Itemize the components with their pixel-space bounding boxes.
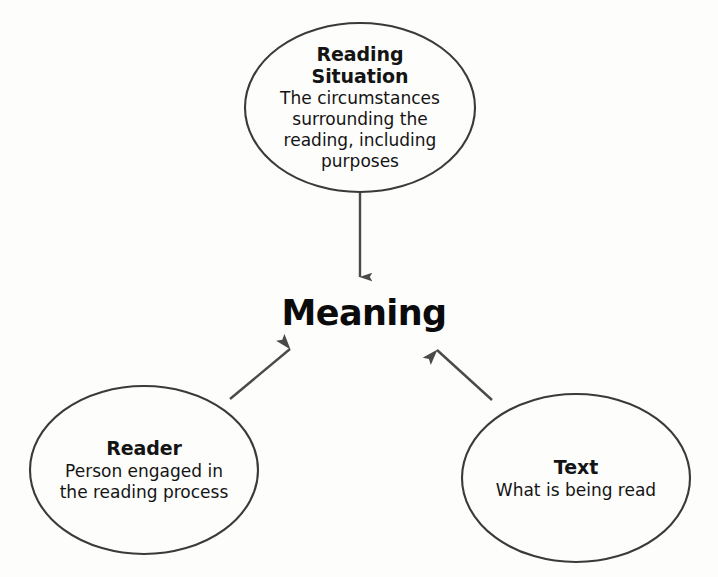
node-reader-title: Reader: [106, 437, 182, 460]
meaning-label: Meaning: [258, 293, 470, 333]
reading-model-diagram: Reading Situation The circumstances surr…: [0, 0, 718, 577]
node-reader: Reader Person engaged in the reading pro…: [29, 385, 259, 555]
node-text-description: What is being read: [496, 480, 656, 501]
node-reading-situation-title: Reading Situation: [312, 43, 409, 87]
node-reading-situation-title-line2: Situation: [312, 65, 409, 87]
node-text-title: Text: [554, 456, 598, 479]
node-reading-situation-description: The circumstances surrounding the readin…: [270, 88, 450, 172]
node-text: Text What is being read: [462, 393, 690, 563]
node-reading-situation-title-line1: Reading: [317, 43, 404, 65]
node-reader-description: Person engaged in the reading process: [51, 461, 237, 503]
node-reading-situation: Reading Situation The circumstances surr…: [244, 22, 476, 193]
